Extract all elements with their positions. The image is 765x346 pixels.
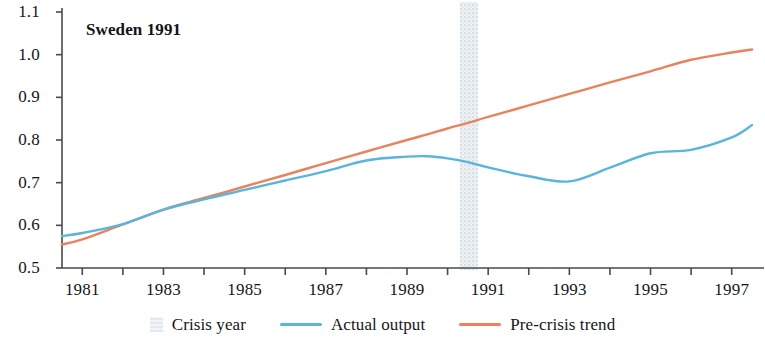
legend-label: Actual output bbox=[331, 316, 425, 333]
y-axis-label: 0.9 bbox=[0, 88, 40, 105]
series-line-pre-crisis-trend bbox=[62, 50, 752, 245]
x-axis-label: 1991 bbox=[458, 281, 518, 298]
legend-entry: Crisis year bbox=[150, 316, 246, 333]
y-axis-label: 0.5 bbox=[0, 259, 40, 276]
legend-line-swatch bbox=[459, 323, 501, 326]
x-axis-label: 1993 bbox=[539, 281, 599, 298]
legend-label: Pre-crisis trend bbox=[510, 316, 615, 333]
y-axis-label: 0.7 bbox=[0, 174, 40, 191]
legend-label: Crisis year bbox=[172, 316, 246, 333]
x-axis-label: 1987 bbox=[296, 281, 356, 298]
y-axis-label: 0.8 bbox=[0, 131, 40, 148]
y-axis-label: 0.6 bbox=[0, 216, 40, 233]
x-axis-label: 1995 bbox=[621, 281, 681, 298]
chart-legend: Crisis yearActual outputPre-crisis trend bbox=[0, 316, 765, 333]
crisis-year-band bbox=[460, 2, 478, 270]
series-line-actual-output bbox=[62, 125, 752, 236]
x-axis-label: 1985 bbox=[215, 281, 275, 298]
x-axis-label: 1997 bbox=[702, 281, 762, 298]
chart-title: Sweden 1991 bbox=[86, 20, 181, 40]
y-axis-label: 1.1 bbox=[0, 3, 40, 20]
legend-line-swatch bbox=[280, 323, 322, 326]
x-axis-label: 1989 bbox=[377, 281, 437, 298]
x-axis-label: 1983 bbox=[133, 281, 193, 298]
y-axis-label: 1.0 bbox=[0, 46, 40, 63]
legend-entry: Actual output bbox=[280, 316, 425, 333]
legend-entry: Pre-crisis trend bbox=[459, 316, 615, 333]
x-axis-label: 1981 bbox=[52, 281, 112, 298]
chart-figure: Sweden 1991 0.50.60.70.80.91.01.1 198119… bbox=[0, 0, 765, 346]
legend-crisis-band-swatch bbox=[150, 317, 163, 332]
